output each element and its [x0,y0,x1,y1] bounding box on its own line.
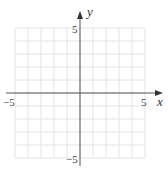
x-min-tick-label: −5 [3,96,15,108]
coordinate-plane: −5 5 5 −5 x y [0,0,168,171]
x-max-tick-label: 5 [141,96,147,108]
y-axis-arrow-icon [77,11,83,19]
y-max-tick-label: 5 [72,23,78,35]
x-axis-title: x [156,94,163,109]
y-axis-title: y [85,4,93,19]
y-min-tick-label: −5 [66,153,78,165]
